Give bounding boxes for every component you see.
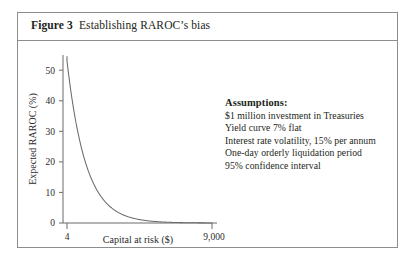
- assumption-item: Yield curve 7% flat: [225, 122, 397, 134]
- x-axis-title: Capital at risk ($): [103, 234, 173, 246]
- x-axis-title-wrap: Capital at risk ($): [18, 229, 245, 249]
- y-tick-label-0: 0: [50, 218, 55, 228]
- assumptions-block: Assumptions: $1 million investment in Tr…: [225, 97, 397, 172]
- y-tick-label-50: 50: [46, 66, 56, 76]
- y-tick-label-10: 10: [46, 188, 56, 198]
- assumption-item: Interest rate volatility, 15% per annum: [225, 135, 397, 147]
- figure-title: Figure 3 Establishing RAROC’s bias: [31, 19, 210, 31]
- raroc-curve: [67, 56, 212, 222]
- figure-number: Figure 3: [31, 19, 73, 31]
- figure-container: Figure 3 Establishing RAROC’s bias 0 10 …: [17, 12, 398, 248]
- raroc-decay-chart: 0 10 20 30 40 50 4 9,000 Expected RAROC …: [18, 41, 245, 248]
- y-axis-title: Expected RAROC (%): [27, 93, 39, 185]
- figure-title-bar: Figure 3 Establishing RAROC’s bias: [18, 13, 397, 41]
- y-tick-label-40: 40: [46, 96, 56, 106]
- assumptions-heading: Assumptions:: [225, 97, 397, 108]
- chart-plot-area: 0 10 20 30 40 50 4 9,000 Expected RAROC …: [18, 41, 245, 248]
- y-tick-label-20: 20: [46, 157, 56, 167]
- assumption-item: $1 million investment in Treasuries: [225, 110, 397, 122]
- assumption-item: One-day orderly liquidation period: [225, 147, 397, 159]
- figure-caption: Establishing RAROC’s bias: [79, 19, 210, 31]
- y-tick-label-30: 30: [46, 127, 56, 137]
- y-axis-ticks: [59, 70, 63, 223]
- assumption-item: 95% confidence interval: [225, 160, 397, 172]
